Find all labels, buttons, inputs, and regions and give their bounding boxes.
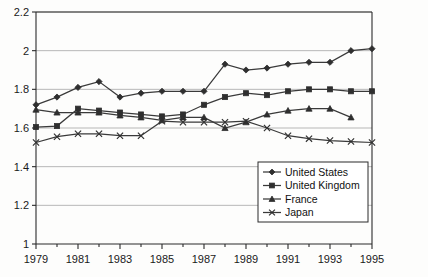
marker-square — [33, 124, 38, 129]
x-tick-label: 1987 — [192, 253, 216, 265]
x-tick-label: 1995 — [360, 253, 384, 265]
marker-square — [369, 89, 374, 94]
marker-diamond — [285, 61, 291, 67]
line-chart: 11.21.41.61.822.2 1979198119831985198719… — [0, 0, 428, 277]
series-united-states — [33, 46, 375, 108]
y-tick-label: 1.4 — [14, 161, 29, 173]
x-tick-label: 1991 — [276, 253, 300, 265]
marker-square — [222, 95, 227, 100]
series-line — [36, 49, 372, 105]
y-tick-label: 1 — [23, 238, 29, 250]
marker-square — [270, 183, 275, 188]
marker-diamond — [306, 59, 312, 65]
legend-label: United Kingdom — [285, 179, 360, 191]
x-tick-label: 1979 — [24, 253, 48, 265]
marker-diamond — [243, 67, 249, 73]
marker-diamond — [327, 59, 333, 65]
legend-label: France — [285, 193, 318, 205]
marker-square — [54, 124, 59, 129]
marker-square — [285, 89, 290, 94]
chart-legend: United StatesUnited KingdomFranceJapan — [258, 162, 368, 222]
y-tick-label: 1.2 — [14, 199, 29, 211]
y-axis-tick-labels: 11.21.41.61.822.2 — [14, 6, 29, 250]
chart-screenshot: 11.21.41.61.822.2 1979198119831985198719… — [0, 0, 428, 277]
y-tick-label: 1.8 — [14, 83, 29, 95]
marker-diamond — [138, 90, 144, 96]
marker-diamond — [54, 94, 60, 100]
y-tick-label: 1.6 — [14, 122, 29, 134]
marker-square — [306, 87, 311, 92]
legend-label: Japan — [285, 206, 314, 218]
series-japan — [33, 118, 375, 145]
marker-square — [327, 87, 332, 92]
y-tick-label: 2 — [23, 45, 29, 57]
marker-diamond — [264, 65, 270, 71]
x-tick-label: 1981 — [66, 253, 90, 265]
marker-diamond — [348, 48, 354, 54]
series-line — [36, 109, 351, 128]
x-axis-tick-labels: 197919811983198519871989199119931995 — [24, 253, 384, 265]
series-line — [36, 121, 372, 142]
x-axis-ticks — [36, 244, 372, 249]
marker-square — [348, 89, 353, 94]
series-layer — [33, 46, 375, 146]
x-tick-label: 1989 — [234, 253, 258, 265]
legend-label: United States — [285, 166, 348, 178]
marker-square — [201, 102, 206, 107]
x-tick-label: 1983 — [108, 253, 132, 265]
y-tick-label: 2.2 — [14, 6, 29, 18]
x-tick-label: 1985 — [150, 253, 174, 265]
marker-square — [264, 93, 269, 98]
x-tick-label: 1993 — [318, 253, 342, 265]
marker-square — [243, 91, 248, 96]
